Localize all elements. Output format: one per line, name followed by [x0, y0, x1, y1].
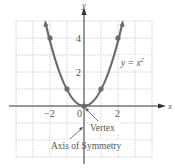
- point-neg2-4: [47, 35, 52, 40]
- y-axis-label: y: [81, 0, 86, 10]
- tick-x-2: 2: [115, 108, 120, 119]
- point-1-1: [98, 86, 103, 91]
- tick-y-4: 4: [76, 33, 81, 44]
- parabola-chart: x y −2 0 2 4 2 y = x2 Vertex Axis of Sym…: [0, 0, 175, 168]
- x-axis-label: x: [167, 101, 172, 111]
- tick-x-neg2: −2: [44, 108, 55, 119]
- tick-y-2: 2: [76, 67, 81, 78]
- axis-of-symmetry-label: Axis of Symmetry: [51, 141, 121, 151]
- point-neg1-1: [64, 86, 69, 91]
- point-vertex: [81, 103, 86, 108]
- vertex-label: Vertex: [90, 123, 115, 133]
- vertex-pointer: [86, 109, 98, 121]
- point-2-4: [115, 35, 120, 40]
- tick-x-0: 0: [77, 108, 82, 119]
